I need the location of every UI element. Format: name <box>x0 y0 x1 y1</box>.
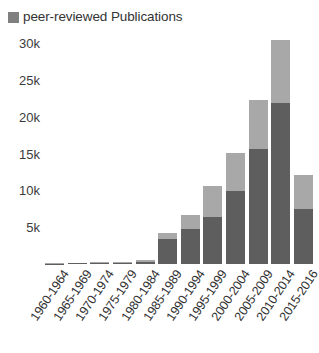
y-axis-tick-15k: 15k <box>19 147 40 160</box>
bar-segment-lower-2015-2016 <box>294 209 313 264</box>
bar-segment-lower-1985-1989 <box>158 239 177 264</box>
bar-1995-1999[interactable] <box>203 36 222 264</box>
bar-segment-upper-1990-1994 <box>181 215 200 228</box>
y-axis-tick-25k: 25k <box>19 74 40 87</box>
bar-segment-upper-2000-2004 <box>226 153 245 191</box>
bar-1960-1964[interactable] <box>45 36 64 264</box>
bar-1985-1989[interactable] <box>158 36 177 264</box>
bar-1970-1974[interactable] <box>90 36 109 264</box>
bar-segment-lower-1990-1994 <box>181 229 200 264</box>
y-axis-tick-30k: 30k <box>19 37 40 50</box>
y-axis-tick-10k: 10k <box>19 184 40 197</box>
bar-segment-upper-2010-2014 <box>271 40 290 103</box>
plot-area <box>45 36 313 264</box>
legend-label-peer-reviewed-publications: peer-reviewed Publications <box>23 10 183 24</box>
bar-segment-lower-1995-1999 <box>203 217 222 264</box>
bar-segment-lower-2000-2004 <box>226 191 245 264</box>
bar-segment-lower-2005-2009 <box>249 149 268 264</box>
x-axis: 1960-19641965-19691970-19741975-19791980… <box>45 264 313 353</box>
y-axis-tick-20k: 20k <box>19 110 40 123</box>
bar-2010-2014[interactable] <box>271 36 290 264</box>
y-axis-tick-5k: 5k <box>26 221 40 234</box>
bar-2005-2009[interactable] <box>249 36 268 264</box>
bar-segment-upper-2015-2016 <box>294 175 313 209</box>
bar-1980-1984[interactable] <box>136 36 155 264</box>
bar-1975-1979[interactable] <box>113 36 132 264</box>
y-axis: 5k10k15k20k25k30k <box>0 36 43 264</box>
bar-series-group <box>45 36 313 264</box>
legend-swatch-icon <box>8 12 19 23</box>
bar-segment-upper-2005-2009 <box>249 100 268 149</box>
bar-2000-2004[interactable] <box>226 36 245 264</box>
publications-bar-chart: peer-reviewed Publications 5k10k15k20k25… <box>0 0 319 353</box>
bar-segment-lower-2010-2014 <box>271 103 290 264</box>
bar-1990-1994[interactable] <box>181 36 200 264</box>
bar-1965-1969[interactable] <box>68 36 87 264</box>
bar-2015-2016[interactable] <box>294 36 313 264</box>
chart-legend: peer-reviewed Publications <box>8 8 183 26</box>
bar-segment-upper-1995-1999 <box>203 186 222 217</box>
